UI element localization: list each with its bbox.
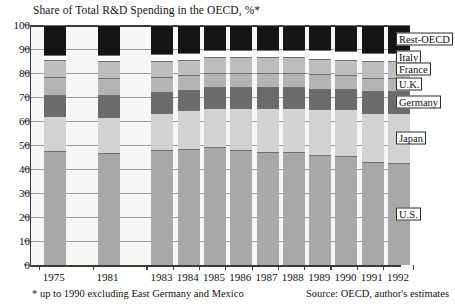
bar-segment-france[interactable] (230, 57, 252, 73)
bar-segment-rest-oecd[interactable] (362, 25, 384, 53)
bar-segment-japan[interactable] (98, 117, 120, 153)
bar-segment-u-k[interactable] (335, 75, 357, 88)
bar-segment-italy[interactable] (257, 50, 279, 57)
bar-segment-italy[interactable] (283, 50, 305, 57)
bar-segment-france[interactable] (283, 57, 305, 73)
bar-segment-rest-oecd[interactable] (178, 25, 200, 53)
bar-segment-u-k[interactable] (362, 78, 384, 91)
segment-divider (283, 57, 305, 58)
bar-segment-japan[interactable] (151, 113, 173, 150)
bar-segment-u-s[interactable] (230, 150, 252, 265)
bar-segment-italy[interactable] (204, 50, 226, 57)
bar-segment-france[interactable] (362, 61, 384, 78)
bar-segment-italy[interactable] (309, 50, 331, 58)
segment-divider (283, 50, 305, 51)
segment-divider (230, 25, 252, 26)
bar-segment-japan[interactable] (204, 108, 226, 148)
bar-segment-u-s[interactable] (309, 155, 331, 265)
stacked-bar[interactable] (283, 25, 305, 265)
bar-segment-rest-oecd[interactable] (44, 25, 66, 55)
bar-segment-france[interactable] (257, 57, 279, 73)
bar-segment-japan[interactable] (309, 109, 331, 155)
segment-divider (98, 117, 120, 118)
stacked-bar[interactable] (335, 25, 357, 265)
bar-segment-italy[interactable] (230, 50, 252, 57)
bar-segment-italy[interactable] (178, 53, 200, 60)
bar-segment-u-s[interactable] (178, 149, 200, 265)
stacked-bar[interactable] (98, 25, 120, 265)
bar-segment-germany[interactable] (204, 87, 226, 107)
bar-segment-u-s[interactable] (204, 147, 226, 265)
bar-segment-rest-oecd[interactable] (309, 25, 331, 50)
segment-divider (178, 60, 200, 61)
bar-segment-germany[interactable] (362, 91, 384, 113)
stacked-bar[interactable] (309, 25, 331, 265)
bar-segment-u-s[interactable] (283, 152, 305, 265)
segment-divider (362, 91, 384, 92)
bar-segment-france[interactable] (178, 60, 200, 76)
bar-segment-rest-oecd[interactable] (230, 25, 252, 50)
bar-segment-rest-oecd[interactable] (335, 25, 357, 51)
bar-segment-u-s[interactable] (257, 152, 279, 265)
bar-segment-rest-oecd[interactable] (151, 25, 173, 54)
bar-segment-france[interactable] (44, 60, 66, 77)
bar-segment-u-s[interactable] (44, 151, 66, 265)
stacked-bar[interactable] (151, 25, 173, 265)
bar-segment-rest-oecd[interactable] (257, 25, 279, 50)
bar-segment-japan[interactable] (44, 116, 66, 151)
stacked-bar[interactable] (230, 25, 252, 265)
bar-segment-germany[interactable] (98, 95, 120, 118)
bar-segment-u-k[interactable] (309, 74, 331, 88)
x-tick-mark (357, 265, 358, 270)
bar-segment-france[interactable] (335, 60, 357, 76)
bar-segment-germany[interactable] (44, 95, 66, 117)
bar-segment-germany[interactable] (335, 89, 357, 109)
bar-segment-italy[interactable] (151, 54, 173, 61)
bar-segment-japan[interactable] (362, 113, 384, 162)
bar-segment-germany[interactable] (257, 87, 279, 107)
bar-segment-italy[interactable] (362, 53, 384, 61)
bar-segment-italy[interactable] (98, 55, 120, 61)
bar-segment-rest-oecd[interactable] (204, 25, 226, 50)
stacked-bar[interactable] (44, 25, 66, 265)
bar-segment-u-k[interactable] (204, 73, 226, 87)
bar-segment-germany[interactable] (283, 87, 305, 107)
bar-segment-france[interactable] (309, 59, 331, 75)
bar-segment-japan[interactable] (178, 110, 200, 148)
bar-segment-u-s[interactable] (335, 156, 357, 265)
bar-segment-germany[interactable] (230, 87, 252, 107)
bar-segment-france[interactable] (204, 57, 226, 73)
bar-segment-france[interactable] (151, 61, 173, 77)
x-tick-mark (413, 265, 414, 270)
bar-segment-germany[interactable] (151, 92, 173, 112)
bar-segment-rest-oecd[interactable] (283, 25, 305, 50)
bar-segment-japan[interactable] (335, 109, 357, 156)
bar-segment-u-k[interactable] (151, 77, 173, 93)
stacked-bar[interactable] (178, 25, 200, 265)
bar-segment-u-k[interactable] (44, 77, 66, 95)
bar-segment-u-k[interactable] (257, 73, 279, 87)
bar-segment-u-k[interactable] (98, 78, 120, 95)
segment-divider (204, 25, 226, 26)
bar-segment-japan[interactable] (283, 108, 305, 152)
bar-segment-u-k[interactable] (283, 73, 305, 87)
bar-segment-germany[interactable] (309, 89, 331, 109)
bar-segment-u-k[interactable] (178, 75, 200, 89)
bar-segment-germany[interactable] (178, 90, 200, 110)
segment-divider (151, 25, 173, 26)
stacked-bar[interactable] (204, 25, 226, 265)
stacked-bar[interactable] (257, 25, 279, 265)
stacked-bar[interactable] (362, 25, 384, 265)
bar-segment-france[interactable] (98, 61, 120, 78)
bar-segment-u-k[interactable] (230, 73, 252, 87)
bar-segment-italy[interactable] (335, 51, 357, 59)
bar-segment-japan[interactable] (257, 108, 279, 152)
bar-segment-u-s[interactable] (362, 162, 384, 265)
bar-segment-u-s[interactable] (98, 153, 120, 265)
segment-divider (283, 87, 305, 88)
bar-segment-rest-oecd[interactable] (98, 25, 120, 55)
segment-divider (309, 59, 331, 60)
bar-segment-u-s[interactable] (151, 150, 173, 265)
bar-segment-japan[interactable] (230, 108, 252, 150)
bar-segment-italy[interactable] (44, 55, 66, 60)
